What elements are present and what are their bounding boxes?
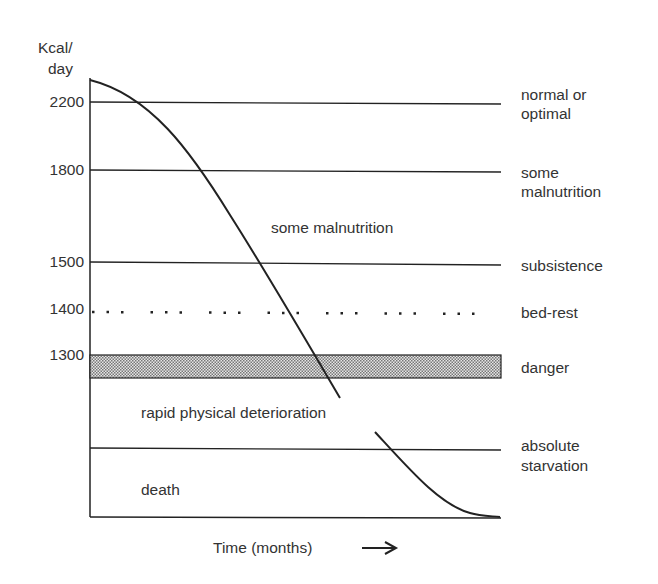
label-some-line1: some: [521, 163, 559, 182]
line-1500: [90, 262, 501, 265]
y-tick-2200: 2200: [24, 93, 84, 111]
label-normal-line2: optimal: [521, 104, 571, 123]
label-absolute-line2: starvation: [521, 456, 588, 475]
line-2200: [90, 102, 501, 104]
y-axis-label-line1: Kcal/: [38, 38, 72, 57]
y-tick-1300: 1300: [24, 346, 84, 364]
label-subsistence: subsistence: [521, 256, 603, 275]
y-tick-1800: 1800: [24, 161, 84, 179]
danger-band: [90, 355, 501, 378]
y-tick-1400: 1400: [24, 300, 84, 318]
line-1400-bedrest: [92, 312, 501, 314]
y-tick-1500: 1500: [24, 253, 84, 271]
label-absolute-line1: absolute: [521, 436, 580, 455]
y-axis-label-line2: day: [48, 59, 73, 78]
x-axis-label: Time (months): [213, 538, 312, 557]
intake-curve: [90, 80, 340, 398]
x-axis: [90, 517, 501, 518]
region-rapid-deterioration: rapid physical deterioration: [141, 403, 326, 422]
region-death: death: [141, 480, 180, 499]
label-some-line2: malnutrition: [521, 182, 601, 201]
label-normal-line1: normal or: [521, 85, 586, 104]
region-some-malnutrition: some malnutrition: [271, 218, 393, 237]
line-1800: [90, 170, 501, 172]
line-absolute-starvation: [90, 448, 501, 450]
label-danger: danger: [521, 358, 569, 377]
label-bedrest: bed-rest: [521, 303, 578, 322]
intake-curve-lower: [375, 432, 500, 517]
